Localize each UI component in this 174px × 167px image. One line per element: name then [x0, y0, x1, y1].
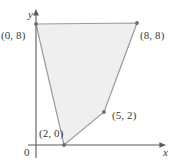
vertex-marker-0-8 [34, 22, 38, 26]
vertex-label-2-0: (2, 0) [39, 128, 63, 139]
vertex-label-0-8: (0, 8) [1, 30, 25, 41]
y-axis-arrowhead [33, 9, 39, 16]
vertex-label-5-2: (5, 2) [112, 110, 136, 121]
vertex-marker-2-0 [62, 143, 66, 147]
vertex-label-8-8: (8, 8) [140, 30, 164, 41]
coordinate-plane-figure: (0, 8) (8, 8) (5, 2) (2, 0) x y 0 [0, 0, 174, 167]
y-axis-label: y [28, 9, 33, 20]
x-axis-label: x [163, 147, 168, 158]
vertex-marker-8-8 [135, 21, 139, 25]
vertex-marker-5-2 [102, 110, 106, 114]
polygon-plot-svg [0, 0, 174, 167]
origin-label: 0 [24, 147, 30, 158]
